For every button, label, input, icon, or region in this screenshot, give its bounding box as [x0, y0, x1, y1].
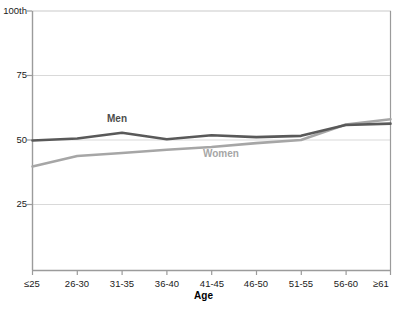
- axes: [32, 11, 391, 271]
- y-tick-label-25: 25: [0, 198, 27, 209]
- gridlines: [32, 11, 391, 205]
- y-tick-label-50: 50: [0, 134, 27, 145]
- y-tick-label-75: 75: [0, 69, 27, 80]
- line-chart: 100th 75 50 25 ≤25 26-30 31-35 36-40 41-…: [0, 0, 407, 311]
- x-tick-label-8: ≥61: [355, 278, 407, 289]
- x-axis-title: Age: [0, 290, 407, 301]
- y-axis-ticks: [27, 11, 32, 205]
- data-line-men: [33, 124, 391, 141]
- series-label-women: Women: [203, 148, 239, 159]
- series-label-men: Men: [107, 113, 127, 124]
- y-tick-label-100: 100th: [0, 5, 27, 16]
